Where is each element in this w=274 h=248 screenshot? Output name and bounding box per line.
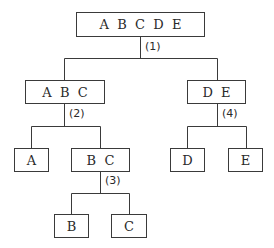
tree-connectors	[0, 0, 274, 248]
step-label-1: (1)	[145, 40, 161, 53]
step-label-2: (2)	[69, 107, 85, 120]
node-abc-label: A B C	[42, 85, 87, 100]
node-d-label: D	[182, 153, 192, 168]
node-a-label: A	[27, 153, 36, 168]
step-label-3: (3)	[105, 174, 121, 187]
connector-abc	[32, 103, 101, 148]
node-b-label: B	[67, 219, 77, 234]
step-label-4: (4)	[222, 107, 238, 120]
connector-de	[188, 103, 247, 148]
node-bc-label: B C	[87, 153, 115, 168]
node-b: B	[54, 214, 89, 238]
node-de: D E	[187, 80, 246, 104]
connector-bc	[72, 171, 130, 214]
node-c-label: C	[124, 219, 134, 234]
node-de-label: D E	[202, 85, 230, 100]
node-e-label: E	[241, 153, 251, 168]
node-abc: A B C	[25, 80, 105, 104]
node-root-label: A B C D E	[100, 17, 182, 32]
node-bc: B C	[71, 148, 130, 172]
node-c: C	[111, 214, 147, 238]
node-root: A B C D E	[76, 12, 205, 37]
node-e: E	[228, 148, 263, 172]
node-a: A	[14, 148, 49, 172]
node-d: D	[170, 148, 205, 172]
connector-root	[65, 36, 218, 80]
